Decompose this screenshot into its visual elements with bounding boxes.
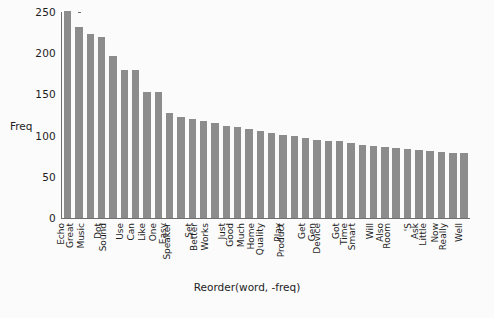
x-axis-tick-label: Better bbox=[190, 223, 199, 251]
x-axis-tick-label: Well bbox=[455, 223, 464, 242]
x-axis-title: Reorder(word, -freq) bbox=[0, 281, 494, 293]
bar bbox=[121, 70, 128, 218]
bar bbox=[189, 119, 196, 218]
bar bbox=[245, 129, 252, 218]
x-axis-tick-label: Can bbox=[127, 223, 136, 241]
bar bbox=[223, 126, 230, 218]
bar-slot bbox=[221, 12, 232, 218]
bar-slot bbox=[164, 12, 175, 218]
bar bbox=[166, 113, 173, 218]
bar bbox=[415, 150, 422, 218]
x-axis-tick-label: Quality bbox=[255, 223, 264, 255]
bar-series bbox=[62, 12, 470, 218]
bar-slot bbox=[266, 12, 277, 218]
bar bbox=[155, 92, 162, 218]
x-axis-tick-label: Good bbox=[226, 223, 235, 247]
x-axis-tick-label: Will bbox=[365, 223, 374, 239]
bar bbox=[132, 70, 139, 218]
bar-slot bbox=[153, 12, 164, 218]
bar-slot bbox=[425, 12, 436, 218]
bar-slot bbox=[85, 12, 96, 218]
bar bbox=[313, 140, 320, 218]
bar-slot bbox=[243, 12, 254, 218]
x-axis-tick-label: Music bbox=[78, 223, 87, 249]
bar-slot bbox=[323, 12, 334, 218]
bar-slot bbox=[413, 12, 424, 218]
bar-slot bbox=[119, 12, 130, 218]
y-axis-ticks: 050100150200250 bbox=[20, 12, 56, 218]
bar bbox=[460, 153, 467, 218]
bar bbox=[347, 143, 354, 218]
bar bbox=[359, 145, 366, 218]
bar-slot bbox=[300, 12, 311, 218]
x-axis-tick-label: Sound bbox=[99, 223, 108, 251]
bar bbox=[426, 151, 433, 218]
x-axis-tick-label: Speaker bbox=[163, 223, 172, 260]
x-axis-tick-label: Little bbox=[419, 223, 428, 246]
bar-slot bbox=[209, 12, 220, 218]
bar bbox=[234, 127, 241, 218]
bar-slot bbox=[107, 12, 118, 218]
x-axis-tick-label: Really bbox=[439, 223, 448, 250]
bar-slot bbox=[436, 12, 447, 218]
bar-slot bbox=[141, 12, 152, 218]
bar-slot bbox=[458, 12, 469, 218]
x-tick-slot: Well bbox=[458, 221, 469, 279]
x-axis-line bbox=[61, 218, 470, 219]
chart-screenshot: Freq 050100150200250 EchoGreatMusicDotSo… bbox=[0, 0, 494, 318]
x-axis-tick-labels: EchoGreatMusicDotSoundUseCanLikeOneEasyS… bbox=[62, 221, 470, 279]
bar bbox=[392, 148, 399, 218]
bar-slot bbox=[232, 12, 243, 218]
bar bbox=[177, 117, 184, 218]
bar-slot bbox=[357, 12, 368, 218]
bar bbox=[370, 146, 377, 218]
bar-slot bbox=[311, 12, 322, 218]
bar bbox=[291, 136, 298, 218]
bar bbox=[381, 147, 388, 218]
bar bbox=[75, 27, 82, 218]
bar bbox=[325, 141, 332, 218]
bar bbox=[87, 34, 94, 218]
x-axis-tick-label: Get bbox=[298, 223, 307, 239]
x-axis-tick-label: Echo bbox=[57, 223, 66, 245]
bar-slot bbox=[402, 12, 413, 218]
x-axis-tick-label: Like bbox=[138, 223, 147, 241]
bar bbox=[109, 56, 116, 218]
bar bbox=[143, 92, 150, 218]
bar bbox=[257, 131, 264, 218]
bar bbox=[302, 138, 309, 218]
x-axis-tick-label: Room bbox=[383, 223, 392, 249]
bar-slot bbox=[277, 12, 288, 218]
bar bbox=[336, 141, 343, 218]
bar-slot bbox=[73, 12, 84, 218]
bar bbox=[211, 123, 218, 218]
bar-slot bbox=[368, 12, 379, 218]
bar-slot bbox=[334, 12, 345, 218]
bar-slot bbox=[96, 12, 107, 218]
bar-slot bbox=[62, 12, 73, 218]
bar-slot bbox=[379, 12, 390, 218]
bar bbox=[268, 133, 275, 218]
bar-slot bbox=[447, 12, 458, 218]
y-axis-tick-label: 250 bbox=[35, 6, 56, 18]
y-axis-tick-label: 100 bbox=[35, 130, 56, 142]
x-axis-tick-label: Use bbox=[116, 223, 125, 240]
bar bbox=[449, 153, 456, 218]
x-axis-tick-label: Great bbox=[66, 223, 75, 248]
bar-slot bbox=[130, 12, 141, 218]
bar bbox=[279, 135, 286, 218]
bar-slot bbox=[187, 12, 198, 218]
y-axis-tick-label: 50 bbox=[42, 171, 56, 183]
bar bbox=[404, 149, 411, 218]
x-axis-tick-label: Much bbox=[237, 223, 246, 247]
bar-slot bbox=[289, 12, 300, 218]
bar-slot bbox=[175, 12, 186, 218]
x-axis-tick-label: Smart bbox=[349, 223, 358, 250]
bar-slot bbox=[391, 12, 402, 218]
y-axis-tick-label: 150 bbox=[35, 88, 56, 100]
bar-slot bbox=[198, 12, 209, 218]
x-axis-tick-label: Device bbox=[313, 223, 322, 254]
bar bbox=[98, 37, 105, 218]
bar bbox=[200, 121, 207, 218]
x-axis-tick-label: Product bbox=[277, 223, 286, 257]
